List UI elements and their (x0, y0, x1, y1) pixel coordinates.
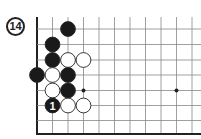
black-stone (61, 83, 76, 98)
white-stone (45, 68, 60, 83)
black-stone (30, 68, 45, 83)
white-stone (61, 98, 76, 113)
black-stone (45, 53, 60, 68)
star-point (82, 89, 86, 93)
star-point (175, 89, 179, 93)
white-stone (61, 53, 76, 68)
white-stone (76, 53, 91, 68)
move-number: 1 (49, 100, 55, 112)
black-stone (61, 68, 76, 83)
black-stone (45, 37, 60, 52)
white-stone (45, 83, 60, 98)
white-stone (76, 98, 91, 113)
black-stone (61, 22, 76, 37)
go-board: 1 (0, 0, 201, 139)
